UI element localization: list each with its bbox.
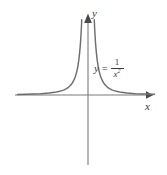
fraction-numerator: 1 <box>113 58 122 68</box>
denominator-exponent: 2 <box>118 68 121 74</box>
equation-fraction: 1 x2 <box>111 58 124 79</box>
equation-equals-sign: = <box>102 64 108 74</box>
x-axis-label: x <box>145 101 150 112</box>
fraction-denominator: x2 <box>112 69 123 79</box>
plot-canvas <box>0 0 167 175</box>
equation-annotation: y = 1 x2 <box>94 58 124 79</box>
curve-left-branch <box>18 20 82 95</box>
arrow-up-icon <box>84 14 92 24</box>
y-axis-label: y <box>92 8 97 19</box>
figure-container: y x y = 1 x2 <box>0 0 167 175</box>
equation-lhs: y <box>94 63 99 74</box>
